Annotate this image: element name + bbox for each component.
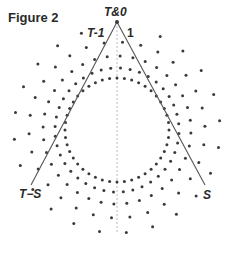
data-dot — [172, 104, 175, 107]
data-dot — [137, 81, 140, 84]
data-dot — [201, 107, 204, 110]
data-dot — [87, 197, 90, 200]
data-dot — [112, 202, 115, 205]
left-near-apex-label: T-1 — [87, 26, 104, 40]
data-dot — [55, 115, 58, 118]
data-dot — [164, 168, 167, 171]
data-dot — [66, 183, 69, 186]
data-dot — [125, 231, 128, 234]
data-dot — [81, 168, 84, 171]
data-dot — [159, 157, 162, 160]
data-dot — [56, 144, 59, 147]
data-dot — [42, 125, 45, 128]
data-dot — [175, 213, 178, 216]
data-dot — [144, 60, 147, 63]
data-dot — [82, 76, 85, 79]
right-triangle-edge — [117, 22, 205, 185]
data-dot — [185, 74, 188, 77]
data-dot — [217, 146, 220, 149]
data-dot — [150, 168, 153, 171]
data-dot — [169, 160, 172, 163]
data-dot — [93, 58, 96, 61]
data-dot — [165, 74, 168, 77]
data-dot — [194, 89, 197, 92]
data-dot — [141, 185, 144, 188]
data-dot — [167, 121, 170, 124]
data-dot — [163, 203, 166, 206]
data-dot — [188, 144, 191, 147]
data-dot — [36, 63, 39, 66]
data-dot — [165, 143, 168, 146]
data-dot — [146, 211, 149, 214]
data-dot — [151, 225, 154, 228]
right-near-apex-label: 1 — [127, 26, 134, 40]
data-dot — [202, 143, 205, 146]
data-dot — [53, 89, 56, 92]
data-dot — [155, 163, 158, 166]
data-dot — [69, 170, 72, 173]
data-dot — [155, 66, 158, 69]
data-dot — [161, 187, 164, 190]
data-dot — [30, 150, 33, 153]
data-dot — [22, 85, 25, 88]
data-dot — [64, 136, 67, 139]
data-dot — [92, 213, 95, 216]
data-dot — [119, 67, 122, 70]
data-dot — [56, 44, 59, 47]
data-dot — [19, 164, 22, 167]
data-dot — [163, 150, 166, 153]
data-dot — [42, 80, 45, 83]
data-dot — [54, 66, 57, 69]
data-dot — [189, 177, 192, 180]
data-dot — [85, 46, 88, 49]
data-dot — [189, 132, 192, 135]
data-dot — [42, 138, 45, 141]
data-dot — [175, 113, 178, 116]
data-dot — [116, 77, 119, 80]
data-dot — [34, 96, 37, 99]
data-dot — [72, 157, 75, 160]
data-dot — [121, 41, 124, 44]
data-dot — [130, 178, 133, 181]
data-dot — [58, 106, 61, 109]
data-dot — [101, 178, 104, 181]
data-dot — [87, 85, 90, 88]
figure-title: Figure 2 — [8, 10, 59, 25]
data-dot — [176, 142, 179, 145]
data-dot — [144, 172, 147, 175]
data-dot — [47, 100, 50, 103]
data-dot — [74, 82, 77, 85]
data-dot — [110, 216, 113, 219]
figure-canvas — [0, 0, 232, 253]
data-dot — [203, 125, 206, 128]
data-dot — [218, 119, 221, 122]
data-dot — [98, 230, 101, 233]
data-dot — [170, 178, 173, 181]
apex-point — [115, 20, 119, 24]
data-dot — [138, 71, 141, 74]
data-dot — [168, 95, 171, 98]
data-dot — [189, 119, 192, 122]
data-dot — [177, 122, 180, 125]
data-dot — [155, 81, 158, 84]
data-dot — [50, 208, 53, 211]
data-dot — [47, 183, 50, 186]
data-dot — [200, 69, 203, 72]
data-dot — [68, 150, 71, 153]
data-dot — [129, 68, 132, 71]
data-dot — [61, 79, 64, 82]
data-dot — [112, 190, 115, 193]
data-dot — [128, 216, 131, 219]
data-dot — [76, 177, 79, 180]
data-dot — [130, 79, 133, 82]
data-dot — [122, 190, 125, 193]
data-dot — [178, 168, 181, 171]
data-dot — [101, 79, 104, 82]
apex-label: T&0 — [104, 5, 127, 19]
data-dot — [75, 207, 78, 210]
data-dot — [167, 136, 170, 139]
data-dot — [119, 55, 122, 58]
data-dot — [138, 199, 141, 202]
data-dot — [29, 114, 32, 117]
data-dot — [64, 129, 67, 132]
